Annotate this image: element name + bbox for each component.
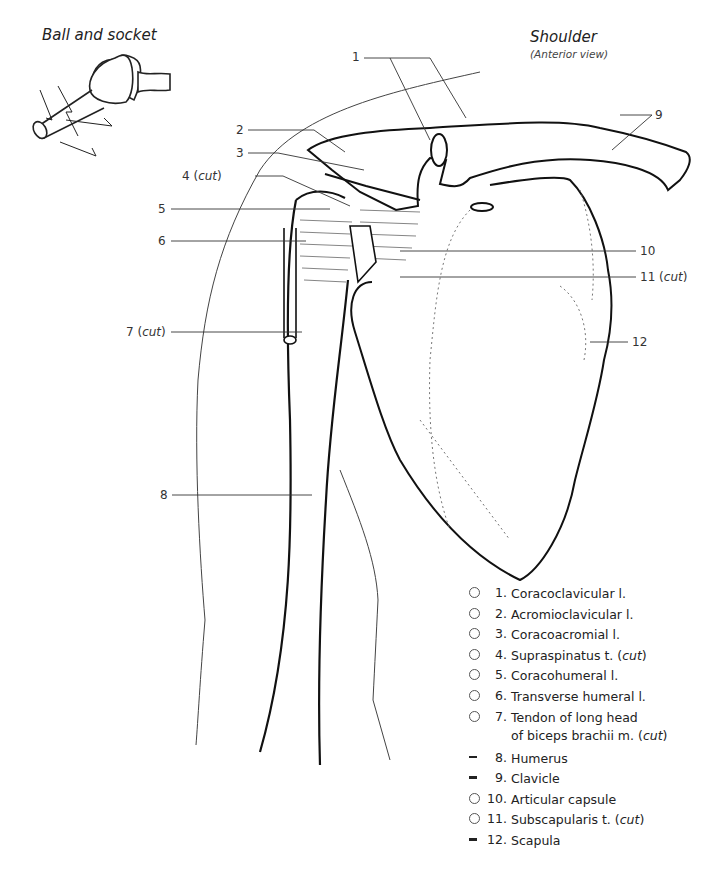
callout-8: 8 bbox=[160, 488, 168, 502]
callout-4: 4 (cut) bbox=[182, 169, 222, 183]
legend-label: Coracohumeral l. bbox=[511, 667, 618, 685]
dash-icon bbox=[467, 832, 487, 848]
legend-item-clavicle: 9. Clavicle bbox=[467, 770, 667, 791]
legend-label: Subscapularis t. (cut) bbox=[511, 811, 644, 829]
circle-icon bbox=[467, 585, 487, 601]
callout-number: 8 bbox=[160, 488, 168, 502]
callout-number: 1 bbox=[352, 50, 360, 64]
legend-label: Humerus bbox=[511, 750, 568, 768]
legend-label-text: Subscapularis t. bbox=[511, 812, 611, 827]
legend-label: Acromioclavicular l. bbox=[511, 606, 633, 624]
legend-label: Clavicle bbox=[511, 770, 560, 788]
legend-number: 1. bbox=[487, 585, 511, 600]
legend-note: cut bbox=[622, 648, 642, 663]
callout-3: 3 bbox=[236, 146, 244, 160]
legend-number: 5. bbox=[487, 667, 511, 682]
legend-item-biceps-tendon: 7. Tendon of long headof biceps brachii … bbox=[467, 709, 667, 750]
legend-item-coracohumeral: 5. Coracohumeral l. bbox=[467, 667, 667, 688]
callout-2: 2 bbox=[236, 123, 244, 137]
legend-label: Supraspinatus t. (cut) bbox=[511, 647, 647, 665]
scapula bbox=[351, 178, 611, 580]
legend-number: 4. bbox=[487, 647, 511, 662]
legend-item-coracoclavicular: 1. Coracoclavicular l. bbox=[467, 585, 667, 606]
callout-6: 6 bbox=[158, 234, 166, 248]
circle-icon bbox=[467, 791, 487, 807]
callout-number: 2 bbox=[236, 123, 244, 137]
legend-number: 10. bbox=[487, 791, 511, 806]
structure-legend: 1. Coracoclavicular l. 2. Acromioclavicu… bbox=[467, 585, 667, 853]
legend-label: Scapula bbox=[511, 832, 560, 850]
callout-note: cut bbox=[142, 325, 161, 339]
circle-icon bbox=[467, 811, 487, 827]
callout-note: cut bbox=[198, 169, 217, 183]
legend-label: Coracoacromial l. bbox=[511, 626, 620, 644]
scapula-dotted-contours bbox=[420, 190, 593, 540]
callout-11: 11 (cut) bbox=[640, 270, 687, 284]
subscapularis-tendon bbox=[350, 226, 376, 282]
callout-7: 7 (cut) bbox=[126, 325, 166, 339]
circle-icon bbox=[467, 647, 487, 663]
callout-10: 10 bbox=[640, 244, 655, 258]
callout-number: 12 bbox=[632, 335, 647, 349]
dash-icon bbox=[467, 750, 487, 766]
circle-icon bbox=[467, 709, 487, 725]
clavicle-and-acromion bbox=[308, 123, 690, 211]
circle-icon bbox=[467, 667, 487, 683]
legend-label-text-line2: of biceps brachii m. bbox=[511, 728, 634, 743]
legend-number: 8. bbox=[487, 750, 511, 765]
callout-note: cut bbox=[664, 270, 683, 284]
legend-note: cut bbox=[620, 812, 640, 827]
circle-icon bbox=[467, 688, 487, 704]
callout-9: 9 bbox=[655, 108, 663, 122]
legend-number: 6. bbox=[487, 688, 511, 703]
legend-label: Transverse humeral l. bbox=[511, 688, 646, 706]
legend-item-coracoacromial: 3. Coracoacromial l. bbox=[467, 626, 667, 647]
callout-number: 7 bbox=[126, 325, 134, 339]
legend-label-text: Supraspinatus t. bbox=[511, 648, 613, 663]
legend-item-humerus: 8. Humerus bbox=[467, 750, 667, 771]
legend-item-transverse-humeral: 6. Transverse humeral l. bbox=[467, 688, 667, 709]
legend-note: cut bbox=[643, 728, 663, 743]
circle-icon bbox=[467, 626, 487, 642]
legend-label: Coracoclavicular l. bbox=[511, 585, 626, 603]
legend-number: 7. bbox=[487, 709, 511, 724]
callout-number: 5 bbox=[158, 202, 166, 216]
legend-label: Articular capsule bbox=[511, 791, 616, 809]
legend-item-scapula: 12. Scapula bbox=[467, 832, 667, 853]
legend-item-acromioclavicular: 2. Acromioclavicular l. bbox=[467, 606, 667, 627]
callout-number: 9 bbox=[655, 108, 663, 122]
legend-number: 2. bbox=[487, 606, 511, 621]
legend-number: 3. bbox=[487, 626, 511, 641]
legend-number: 12. bbox=[487, 832, 511, 847]
legend-number: 9. bbox=[487, 770, 511, 785]
callout-number: 4 bbox=[182, 169, 190, 183]
callout-1: 1 bbox=[352, 50, 360, 64]
callout-number: 11 bbox=[640, 270, 655, 284]
legend-item-articular-capsule: 10. Articular capsule bbox=[467, 791, 667, 812]
legend-label-text: Tendon of long head bbox=[511, 710, 638, 725]
callout-number: 6 bbox=[158, 234, 166, 248]
dash-icon bbox=[467, 770, 487, 786]
legend-number: 11. bbox=[487, 811, 511, 826]
humerus bbox=[260, 192, 348, 766]
callout-12: 12 bbox=[632, 335, 647, 349]
callout-5: 5 bbox=[158, 202, 166, 216]
ball-and-socket-icon bbox=[30, 55, 170, 156]
callout-number: 3 bbox=[236, 146, 244, 160]
legend-item-supraspinatus: 4. Supraspinatus t. (cut) bbox=[467, 647, 667, 668]
circle-icon bbox=[467, 606, 487, 622]
legend-label: Tendon of long headof biceps brachii m. … bbox=[511, 709, 667, 745]
callout-number: 10 bbox=[640, 244, 655, 258]
legend-item-subscapularis: 11. Subscapularis t. (cut) bbox=[467, 811, 667, 832]
